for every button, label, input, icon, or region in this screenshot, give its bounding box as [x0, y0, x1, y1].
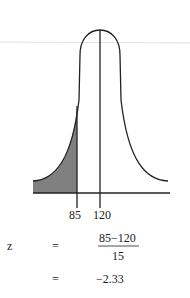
result: −2.33 [96, 273, 124, 285]
equals-sign-2: = [52, 273, 59, 285]
mean-label: 120 [93, 209, 111, 221]
numerator: 85−120 [99, 232, 136, 244]
cutoff-label: 85 [69, 209, 81, 221]
normal-curve-diagram [0, 0, 190, 298]
denominator: 15 [112, 250, 124, 262]
background-line [0, 42, 190, 43]
z-variable: z [7, 240, 12, 252]
equals-sign-1: = [52, 240, 59, 252]
